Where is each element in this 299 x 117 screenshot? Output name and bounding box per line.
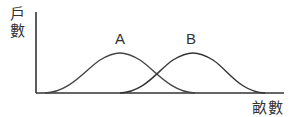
curve-b-label: B <box>186 30 196 47</box>
curve-a-label: A <box>115 30 125 47</box>
curve-b <box>120 53 265 93</box>
x-axis-label: 畝數 <box>252 96 284 117</box>
y-axis-label: 戶數 <box>8 6 26 40</box>
curve-a <box>45 53 195 93</box>
